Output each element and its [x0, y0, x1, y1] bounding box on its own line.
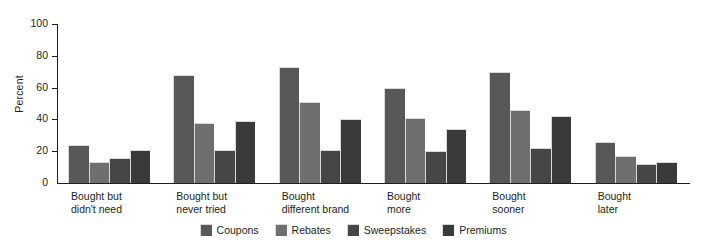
- legend-item: Rebates: [275, 224, 331, 236]
- bar-group: [384, 24, 466, 183]
- bar: [446, 129, 467, 183]
- bar: [489, 72, 510, 183]
- bar: [173, 75, 194, 183]
- bar-group: [173, 24, 255, 183]
- y-tick-mark: [52, 24, 57, 25]
- legend-label: Premiums: [459, 224, 506, 236]
- y-tick-label: 60: [36, 81, 48, 93]
- bar: [235, 121, 256, 183]
- y-tick: 40: [11, 119, 57, 120]
- y-tick-mark: [52, 151, 57, 152]
- category-label: Bought sooner: [492, 190, 525, 215]
- bar: [299, 102, 320, 183]
- bar: [656, 162, 677, 183]
- y-tick: 0: [11, 183, 57, 184]
- plot-area: 020406080100: [57, 24, 690, 183]
- bar: [109, 158, 130, 183]
- bar: [405, 118, 426, 183]
- y-tick: 80: [11, 56, 57, 57]
- bar-group: [489, 24, 571, 183]
- category-label: Bought but didn't need: [71, 190, 122, 215]
- bar: [510, 110, 531, 183]
- bar-group: [68, 24, 150, 183]
- bar-groups: [58, 24, 690, 183]
- bar: [89, 162, 110, 183]
- y-tick: 60: [11, 88, 57, 89]
- category-label: Bought but never tried: [176, 190, 227, 215]
- bar: [551, 116, 572, 183]
- legend-swatch-icon: [200, 224, 212, 236]
- category-label: Bought more: [387, 190, 420, 215]
- y-tick-label: 80: [36, 49, 48, 61]
- y-tick: 20: [11, 151, 57, 152]
- bar: [384, 88, 405, 183]
- bar-group: [595, 24, 677, 183]
- bar: [636, 164, 657, 183]
- legend-label: Sweepstakes: [364, 224, 426, 236]
- legend-item: Premiums: [442, 224, 506, 236]
- bar: [530, 148, 551, 183]
- bar: [279, 67, 300, 183]
- legend-swatch-icon: [275, 224, 287, 236]
- y-tick-label: 0: [42, 176, 48, 188]
- legend-label: Rebates: [292, 224, 331, 236]
- legend-swatch-icon: [347, 224, 359, 236]
- bar: [194, 123, 215, 183]
- legend-swatch-icon: [442, 224, 454, 236]
- chart-legend: CouponsRebatesSweepstakesPremiums: [0, 224, 713, 236]
- bar: [214, 150, 235, 183]
- category-label: Bought later: [598, 190, 631, 215]
- y-tick-label: 100: [30, 17, 48, 29]
- bar-group: [279, 24, 361, 183]
- category-label: Bought different brand: [282, 190, 350, 215]
- bar: [615, 156, 636, 183]
- y-tick: 100: [11, 24, 57, 25]
- y-tick-mark: [52, 119, 57, 120]
- legend-item: Coupons: [200, 224, 259, 236]
- bar: [130, 150, 151, 183]
- bar: [320, 150, 341, 183]
- bar: [595, 142, 616, 183]
- legend-item: Sweepstakes: [347, 224, 426, 236]
- legend-label: Coupons: [217, 224, 259, 236]
- bar: [340, 119, 361, 183]
- x-axis-line: [57, 183, 690, 184]
- y-tick-mark: [52, 88, 57, 89]
- y-tick-mark: [52, 56, 57, 57]
- bar: [425, 151, 446, 183]
- y-tick-label: 40: [36, 112, 48, 124]
- bar-chart: Percent 020406080100 Bought but didn't n…: [0, 0, 713, 251]
- bar: [68, 145, 89, 183]
- y-tick-label: 20: [36, 144, 48, 156]
